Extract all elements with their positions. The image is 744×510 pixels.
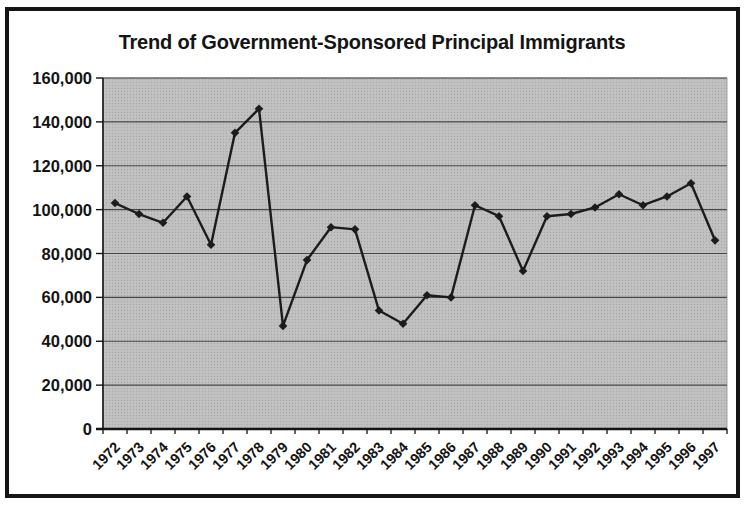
y-axis-label-0: 0 xyxy=(83,420,92,438)
y-axis-label-120,000: 120,000 xyxy=(32,157,92,175)
y-axis-label-80,000: 80,000 xyxy=(42,245,92,263)
y-axis-label-40,000: 40,000 xyxy=(42,332,92,350)
y-axis-label-60,000: 60,000 xyxy=(42,288,92,306)
y-axis-label-160,000: 160,000 xyxy=(32,69,92,87)
line-chart: 020,00040,00060,00080,000100,000120,0001… xyxy=(0,0,744,510)
x-axis-label-1997: 1997 xyxy=(689,439,723,473)
y-axis-label-140,000: 140,000 xyxy=(32,113,92,131)
y-axis-label-20,000: 20,000 xyxy=(42,376,92,394)
scanned-chart-page: Trend of Government-Sponsored Principal … xyxy=(0,0,744,510)
y-axis-label-100,000: 100,000 xyxy=(32,201,92,219)
